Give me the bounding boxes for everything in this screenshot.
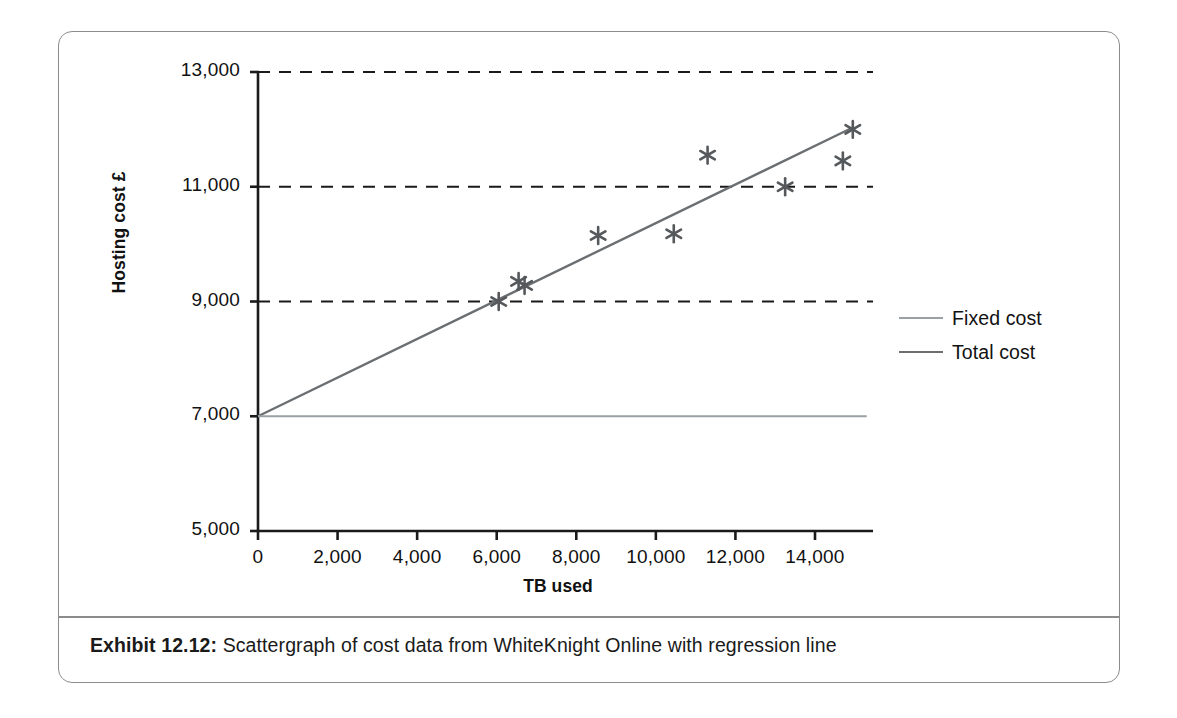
y-tick-label-13000: 13,000 <box>130 59 240 81</box>
caption-divider <box>59 616 1119 618</box>
y-tick-label-5000: 5,000 <box>130 518 240 540</box>
chart-legend: Fixed costTotal cost <box>899 301 1042 369</box>
x-tick-label-12000: 12,000 <box>690 546 780 568</box>
x-tick-label-8000: 8,000 <box>531 546 621 568</box>
legend-line-swatch <box>899 351 943 353</box>
x-tick-label-4000: 4,000 <box>372 546 462 568</box>
y-tick-label-9000: 9,000 <box>130 289 240 311</box>
legend-item-fixed-cost: Fixed cost <box>899 301 1042 335</box>
y-axis-title: Hosting cost £ <box>109 113 130 353</box>
x-axis-title: TB used <box>448 576 668 597</box>
legend-line-swatch <box>899 317 943 319</box>
caption-description-text: Scattergraph of cost data from WhiteKnig… <box>223 634 837 656</box>
figure-caption: Exhibit 12.12: Scattergraph of cost data… <box>90 634 1090 657</box>
caption-exhibit-label: Exhibit 12.12: <box>90 634 217 656</box>
y-tick-label-7000: 7,000 <box>130 403 240 425</box>
legend-label: Fixed cost <box>952 307 1042 330</box>
x-tick-label-14000: 14,000 <box>770 546 860 568</box>
legend-label: Total cost <box>952 341 1035 364</box>
x-tick-label-6000: 6,000 <box>452 546 542 568</box>
x-tick-label-2000: 2,000 <box>293 546 383 568</box>
x-tick-label-0: 0 <box>213 546 303 568</box>
y-tick-label-11000: 11,000 <box>130 174 240 196</box>
x-tick-label-10000: 10,000 <box>611 546 701 568</box>
legend-item-total-cost: Total cost <box>899 335 1042 369</box>
